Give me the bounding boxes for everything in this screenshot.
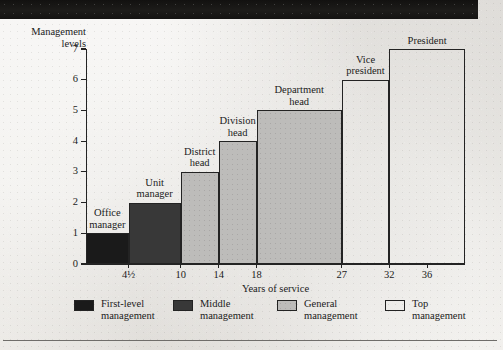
x-axis-tick-label: 4½ [122, 269, 135, 280]
y-axis-tick-label-text: 5 [56, 105, 78, 115]
legend-swatch-dark [173, 300, 193, 311]
legend-swatch-black [74, 300, 94, 311]
x-axis-tick-mark [389, 264, 390, 268]
x-axis-tick-label: 14 [213, 269, 224, 280]
bar-vice-president [342, 80, 389, 264]
x-axis-tick-label: 32 [384, 269, 395, 280]
y-axis-tick-mark [81, 79, 86, 80]
legend-label-line2: management [101, 310, 155, 322]
legend-label-line2: management [412, 310, 466, 322]
y-axis-tick-label: 1 [52, 228, 78, 238]
y-axis-tick-label: 3 [52, 166, 78, 176]
x-axis-tick-mark [218, 264, 219, 268]
y-axis-tick-label: 7 [52, 44, 78, 54]
y-axis-tick-mark [81, 202, 86, 203]
x-axis-tick-mark [341, 264, 342, 268]
bar-department-head [257, 110, 342, 264]
bar-label-line2: manager [89, 219, 125, 231]
bar-label-line2: president [346, 65, 385, 77]
legend-swatch-white [385, 300, 405, 311]
y-axis-title-line1: Management [10, 26, 86, 38]
legend-label-line2: management [304, 310, 358, 322]
y-axis-tick-mark [81, 48, 86, 49]
x-axis-title: Years of service [86, 283, 465, 294]
bar-office-manager [86, 233, 129, 264]
bar-label-line2: head [184, 157, 216, 169]
y-axis-tick-label-text: 7 [56, 44, 78, 54]
legend-label-line1: Middle [200, 298, 254, 310]
y-axis-tick-label: 4 [52, 136, 78, 146]
x-axis-tick-mark [128, 264, 129, 268]
y-axis-tick-mark [81, 110, 86, 111]
bar-label-department-head: Departmenthead [274, 84, 324, 107]
y-axis-tick-mark [81, 141, 86, 142]
bar-label-line2: head [220, 127, 256, 139]
legend-label: Middlemanagement [200, 298, 254, 321]
y-axis-tick-label-text: 3 [56, 166, 78, 176]
y-axis-tick-label: 5 [52, 105, 78, 115]
legend-label-line1: General [304, 298, 358, 310]
bar-label-office-manager: Officemanager [89, 207, 125, 230]
x-axis-tick-mark [180, 264, 181, 268]
bar-label-line1: Office [89, 207, 125, 219]
y-axis-tick-mark [81, 171, 86, 172]
y-axis-tick-label-text: 0 [56, 259, 78, 269]
x-axis-tick-label: 27 [337, 269, 348, 280]
legend-label-line1: Top [412, 298, 466, 310]
legend-swatch-light [277, 300, 297, 311]
bar-label-line1: Unit [137, 177, 173, 189]
y-axis-tick-label: 2 [52, 197, 78, 207]
bar-label-line1: Division [220, 115, 256, 127]
x-axis-tick-mark [256, 264, 257, 268]
y-axis-tick-label-text: 6 [56, 74, 78, 84]
y-axis-tick-label: 0 [52, 259, 78, 269]
legend-label-line2: management [200, 310, 254, 322]
bar-unit-manager [129, 203, 181, 264]
bar-label-division-head: Divisionhead [220, 115, 256, 138]
legend-label: Topmanagement [412, 298, 466, 321]
x-axis-tick-mark [427, 264, 428, 268]
bar-label-line1: Vice [346, 54, 385, 66]
x-axis-tick-label: 36 [422, 269, 433, 280]
bar-label-vice-president: Vicepresident [346, 54, 385, 77]
bar-division-head [219, 141, 257, 264]
y-axis-tick-label-text: 1 [56, 228, 78, 238]
legend-label: Generalmanagement [304, 298, 358, 321]
y-axis-tick-label: 6 [52, 74, 78, 84]
legend-label-line1: First-level [101, 298, 155, 310]
y-axis-tick-label-text: 2 [56, 197, 78, 207]
bar-label-unit-manager: Unitmanager [137, 177, 173, 200]
x-axis-tick-label: 18 [251, 269, 262, 280]
chart-legend: First-levelmanagementMiddlemanagementGen… [0, 299, 503, 333]
bar-label-line1: District [184, 146, 216, 158]
bar-label-president: President [408, 35, 447, 47]
bar-label-district-head: Districthead [184, 146, 216, 169]
bar-label-line1: Department [274, 84, 324, 96]
bar-president [389, 49, 465, 264]
bar-label-line2: head [274, 96, 324, 108]
y-axis-tick-label-text: 4 [56, 136, 78, 146]
x-axis-line [86, 264, 465, 265]
bar-district-head [181, 172, 219, 264]
bar-label-line2: manager [137, 188, 173, 200]
bar-label-line1: President [408, 35, 447, 47]
legend-label: First-levelmanagement [101, 298, 155, 321]
x-axis-tick-label: 10 [176, 269, 187, 280]
